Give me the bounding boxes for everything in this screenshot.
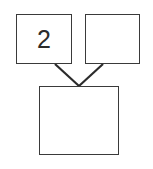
node-parent-left[interactable]: 2 [16, 14, 72, 64]
node-parent-right[interactable] [85, 14, 140, 64]
node-child-bottom[interactable] [39, 86, 119, 155]
node-parent-left-label: 2 [37, 27, 51, 52]
edge-left-to-child [55, 64, 79, 86]
edge-right-to-child [79, 64, 103, 86]
diagram-canvas: 2 [0, 0, 153, 169]
